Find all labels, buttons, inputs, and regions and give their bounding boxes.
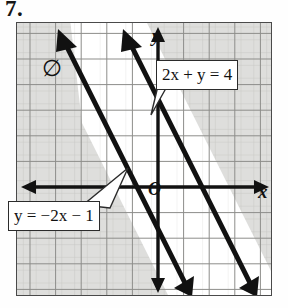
x-axis-label: x <box>258 182 268 201</box>
figure-root: 7. <box>0 0 288 308</box>
origin-label: O <box>148 180 161 198</box>
y-axis-label: y <box>152 26 160 45</box>
problem-number: 7. <box>5 0 23 22</box>
equation-callout-2: y = −2x − 1 <box>8 201 100 231</box>
equation-callout-1: 2x + y = 4 <box>156 60 238 90</box>
empty-set-icon: ∅ <box>42 57 62 80</box>
